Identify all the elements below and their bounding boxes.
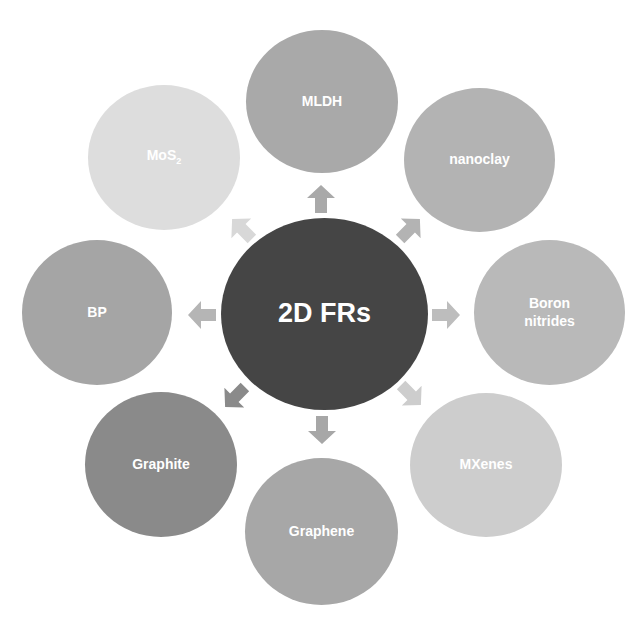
node-label-graphene: Graphene [289,523,354,541]
node-label-graphite: Graphite [132,456,190,474]
node-graphite: Graphite [85,392,237,537]
node-label-mos2: MoS2 [147,147,182,167]
node-label-mxenes: MXenes [460,456,513,474]
node-label-nanoclay: nanoclay [449,151,510,169]
node-mos2: MoS2 [88,85,240,230]
node-mxenes: MXenes [410,393,562,537]
node-nanoclay: nanoclay [404,88,555,232]
arrow-up-icon [306,184,336,214]
arrow-down-left-icon [214,376,256,418]
arrow-right-icon [431,300,461,330]
node-label-boron-nitrides: Boron nitrides [524,295,575,330]
arrow-left-icon [187,300,217,330]
node-label-mldh: MLDH [302,93,342,111]
node-boron-nitrides: Boron nitrides [474,240,625,385]
node-graphene: Graphene [245,458,398,605]
node-bp: BP [22,240,172,385]
node-center-2d-frs: 2D FRs [221,218,428,410]
node-label-center: 2D FRs [278,297,371,331]
node-mldh: MLDH [246,30,398,173]
node-label-bp: BP [87,304,106,322]
arrow-down-icon [307,415,337,445]
